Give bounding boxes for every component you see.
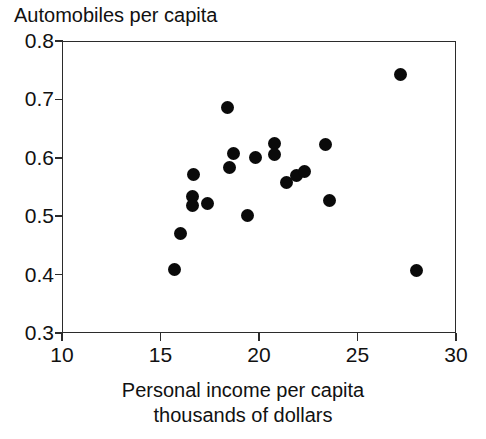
y-tick-label: 0.8 <box>0 30 54 51</box>
x-tick-label: 30 <box>426 344 486 365</box>
x-tick-mark <box>258 333 260 341</box>
x-tick-label: 10 <box>32 344 92 365</box>
plot-frame <box>62 41 456 333</box>
y-tick-mark <box>55 274 63 276</box>
y-tick-label: 0.7 <box>0 88 54 109</box>
y-tick-mark <box>55 99 63 101</box>
x-tick-label: 20 <box>229 344 289 365</box>
x-axis-title-line2: thousands of dollars <box>0 403 486 428</box>
x-tick-label: 15 <box>131 344 191 365</box>
x-tick-label: 25 <box>328 344 388 365</box>
y-axis-title: Automobiles per capita <box>14 3 217 27</box>
y-tick-mark <box>55 157 63 159</box>
y-tick-mark <box>55 215 63 217</box>
y-tick-label: 0.5 <box>0 205 54 226</box>
x-axis-title-line1: Personal income per capita <box>122 379 364 401</box>
x-tick-mark <box>61 333 63 341</box>
y-tick-label: 0.4 <box>0 264 54 285</box>
x-tick-mark <box>357 333 359 341</box>
x-axis-title: Personal income per capita thousands of … <box>0 378 486 428</box>
y-tick-mark <box>55 40 63 42</box>
y-tick-label: 0.3 <box>0 322 54 343</box>
x-tick-mark <box>455 333 457 341</box>
scatter-plot-figure: Automobiles per capita 0.80.70.60.50.40.… <box>0 0 486 439</box>
x-tick-mark <box>160 333 162 341</box>
y-tick-label: 0.6 <box>0 147 54 168</box>
